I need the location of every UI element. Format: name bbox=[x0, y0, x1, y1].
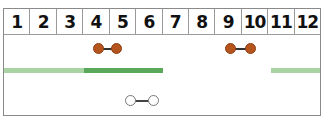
filled-dot-icon bbox=[245, 43, 256, 54]
filled-dot-icon bbox=[93, 43, 104, 54]
hollow-dot-icon bbox=[148, 95, 159, 106]
column-header-3: 3 bbox=[57, 9, 83, 34]
column-header-11: 11 bbox=[268, 9, 294, 34]
column-header-6: 6 bbox=[136, 9, 162, 34]
filled-dot-icon bbox=[225, 43, 236, 54]
column-header-row: 1 2 3 4 5 6 7 8 9 10 11 12 bbox=[4, 9, 320, 35]
hollow-dot-icon bbox=[125, 95, 136, 106]
column-header-12: 12 bbox=[295, 9, 320, 34]
filled-dumbbell-9-10 bbox=[225, 43, 256, 55]
column-header-8: 8 bbox=[189, 9, 215, 34]
column-header-7: 7 bbox=[163, 9, 189, 34]
column-header-9: 9 bbox=[215, 9, 241, 34]
light-green-bar-1-3 bbox=[4, 68, 84, 73]
light-green-bar-11-12 bbox=[271, 68, 320, 73]
filled-dot-icon bbox=[111, 43, 122, 54]
column-header-10: 10 bbox=[242, 9, 268, 34]
column-header-5: 5 bbox=[110, 9, 136, 34]
hollow-dumbbell bbox=[125, 95, 159, 107]
column-header-4: 4 bbox=[83, 9, 109, 34]
timeline-frame: 1 2 3 4 5 6 7 8 9 10 11 12 bbox=[3, 8, 321, 116]
column-header-1: 1 bbox=[4, 9, 30, 34]
column-header-2: 2 bbox=[30, 9, 56, 34]
filled-dumbbell-4-5 bbox=[93, 43, 122, 55]
dark-green-bar-4-6 bbox=[84, 68, 163, 73]
